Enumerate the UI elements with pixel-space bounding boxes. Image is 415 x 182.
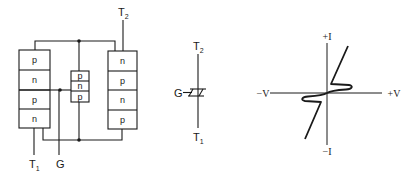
layer-label: p <box>120 115 125 125</box>
t2-label: T2 <box>118 6 129 20</box>
symbol-gate-label: G <box>174 87 183 99</box>
plus-v-label: +V <box>388 88 402 99</box>
layer-label: p <box>77 92 82 102</box>
plus-i-label: +I <box>323 31 332 42</box>
center-block-labels: p n p <box>77 71 82 102</box>
layer-label: p <box>32 95 37 105</box>
symbol-t1-label: T1 <box>193 131 204 145</box>
layer-label: p <box>77 71 82 81</box>
layer-label: n <box>32 75 37 85</box>
bottom-wire <box>43 128 122 140</box>
iv-curve-lower <box>302 93 327 139</box>
minus-i-label: −I <box>323 146 332 157</box>
layer-label: n <box>32 114 37 124</box>
junction-dot-bottom <box>77 138 81 142</box>
iv-curve-upper <box>327 46 352 93</box>
symbol-t2-label: T2 <box>193 40 204 54</box>
gate-label: G <box>56 158 65 170</box>
t1-label: T1 <box>29 158 40 172</box>
layer-label: n <box>120 56 125 66</box>
layer-label: p <box>32 55 37 65</box>
layer-label: p <box>120 76 125 86</box>
triac-symbol <box>183 54 206 128</box>
layer-label: n <box>77 81 82 91</box>
layer-label: n <box>120 95 125 105</box>
triac-diagram: p n p n p n p n p n p T2 T1 G T2 T1 G +I… <box>0 0 415 182</box>
minus-v-label: −V <box>257 88 271 99</box>
iv-characteristic <box>270 43 382 145</box>
junction-dot-top <box>77 39 81 43</box>
junction-dot-gate <box>58 88 62 92</box>
